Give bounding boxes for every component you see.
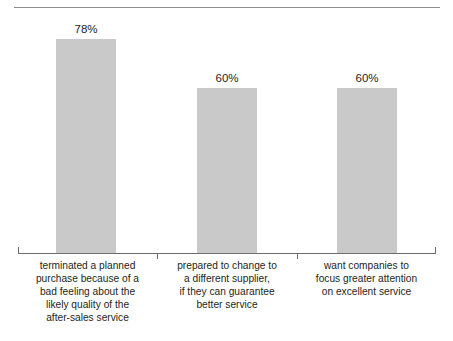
category-label-line: purchase because of a	[18, 272, 157, 285]
bar[interactable]	[56, 39, 116, 253]
category-label-line: terminated a planned	[18, 259, 157, 272]
category-label-line: on excellent service	[297, 285, 436, 298]
category-label: terminated a plannedpurchase because of …	[18, 259, 157, 324]
category-label-line: focus greater attention	[297, 272, 436, 285]
category-label: prepared to change toa different supplie…	[157, 259, 297, 311]
category-label-line: want companies to	[297, 259, 436, 272]
category-label-line: a different supplier,	[157, 272, 297, 285]
bar[interactable]	[197, 88, 257, 253]
bar-value-label: 60%	[355, 72, 378, 85]
category-axis-line	[18, 253, 436, 254]
top-divider-rule	[14, 7, 440, 8]
bar[interactable]	[337, 88, 397, 253]
category-label: want companies tofocus greater attention…	[297, 259, 436, 298]
bar-group: 60%	[337, 88, 397, 253]
category-labels: terminated a plannedpurchase because of …	[18, 259, 436, 341]
bar-chart-figure: 78% 60% 60% terminated a plannedpurchase…	[0, 0, 453, 341]
category-label-line: bad feeling about the	[18, 285, 157, 298]
axis-tick-start	[18, 247, 19, 253]
category-label-line: after-sales service	[18, 311, 157, 324]
bar-group: 60%	[197, 88, 257, 253]
plot-area: 78% 60% 60%	[18, 14, 436, 253]
bar-value-label: 60%	[215, 72, 238, 85]
category-label-line: better service	[157, 298, 297, 311]
category-label-line: if they can guarantee	[157, 285, 297, 298]
axis-tick-end	[435, 247, 436, 253]
bar-group: 78%	[56, 39, 116, 253]
bar-value-label: 78%	[74, 23, 97, 36]
category-label-line: prepared to change to	[157, 259, 297, 272]
category-label-line: likely quality of the	[18, 298, 157, 311]
